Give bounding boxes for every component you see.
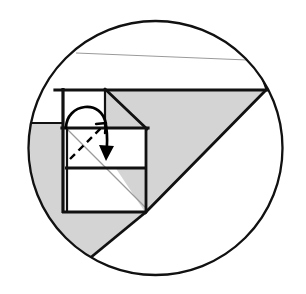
upper-white-band (49, 78, 266, 90)
white-inner-square-top (63, 89, 105, 128)
fold-diagram: Paper folding construction inside a circ… (0, 0, 306, 294)
figure-root: Paper folding construction inside a circ… (0, 0, 306, 294)
